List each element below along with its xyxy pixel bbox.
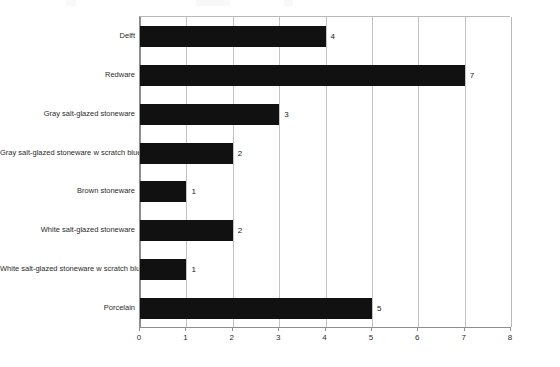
x-tick-1 [185, 327, 186, 331]
gridline-x-8 [511, 17, 512, 327]
x-tick-2 [232, 327, 233, 331]
category-axis: DelftRedwareGray salt-glazed stonewareGr… [0, 16, 135, 327]
category-label: White salt-glazed stoneware [0, 225, 135, 234]
category-label: Porcelain [0, 303, 135, 312]
bar[interactable] [140, 259, 186, 280]
category-label: Gray salt-glazed stoneware [0, 109, 135, 118]
bar-row: 1 [140, 173, 510, 212]
bar[interactable] [140, 143, 233, 164]
bar-row: 3 [140, 95, 510, 134]
category-label: Delft [0, 31, 135, 40]
bar-row: 2 [140, 211, 510, 250]
bar-value-label: 5 [377, 304, 381, 314]
bar-row: 1 [140, 250, 510, 289]
bar-value-label: 7 [470, 71, 474, 81]
x-tick-7 [464, 327, 465, 331]
x-tick-0 [139, 327, 140, 331]
bar[interactable] [140, 298, 372, 319]
scan-artifact [66, 0, 76, 6]
bar-value-label: 2 [238, 149, 242, 159]
x-tick-5 [371, 327, 372, 331]
bar-value-label: 2 [238, 226, 242, 236]
x-tick-label-7: 7 [454, 333, 474, 343]
x-tick-label-4: 4 [315, 333, 335, 343]
x-tick-label-5: 5 [361, 333, 381, 343]
bar-chart-figure: DelftRedwareGray salt-glazed stonewareGr… [0, 0, 560, 367]
x-tick-label-2: 2 [222, 333, 242, 343]
category-label: Redware [0, 70, 135, 79]
bar-value-label: 1 [191, 265, 195, 275]
bar[interactable] [140, 220, 233, 241]
bar-value-label: 4 [331, 32, 335, 42]
plot-area: 47321215 [139, 16, 510, 327]
x-tick-4 [325, 327, 326, 331]
bar-row: 7 [140, 56, 510, 95]
scan-artifact [284, 0, 293, 6]
bar[interactable] [140, 104, 279, 125]
bar[interactable] [140, 26, 326, 47]
x-tick-label-0: 0 [129, 333, 149, 343]
bar[interactable] [140, 181, 186, 202]
category-label: White salt-glazed stoneware w scratch bl… [0, 264, 135, 273]
x-tick-8 [510, 327, 511, 331]
scan-artifact [196, 0, 230, 6]
bar[interactable] [140, 65, 465, 86]
x-tick-label-6: 6 [407, 333, 427, 343]
x-tick-label-8: 8 [500, 333, 520, 343]
bar-row: 2 [140, 134, 510, 173]
x-tick-6 [417, 327, 418, 331]
bar-value-label: 3 [284, 110, 288, 120]
bar-row: 5 [140, 289, 510, 328]
bar-row: 4 [140, 17, 510, 56]
bar-value-label: 1 [191, 187, 195, 197]
category-label: Brown stoneware [0, 186, 135, 195]
x-tick-label-3: 3 [268, 333, 288, 343]
category-label: Gray salt-glazed stoneware w scratch blu… [0, 148, 135, 157]
x-tick-label-1: 1 [175, 333, 195, 343]
x-tick-3 [278, 327, 279, 331]
